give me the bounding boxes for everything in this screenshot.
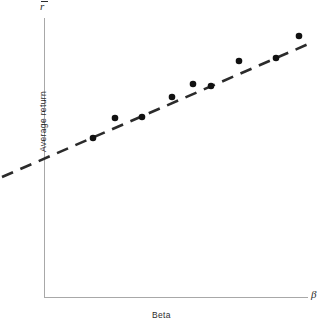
- data-point: [90, 135, 97, 142]
- data-point: [236, 58, 243, 65]
- data-point: [296, 33, 303, 40]
- chart-figure: r β Average return Beta: [0, 0, 325, 328]
- y-axis-title: Average return: [38, 138, 48, 152]
- data-point: [208, 83, 215, 90]
- data-point: [190, 81, 197, 88]
- y-axis-symbol: r: [40, 1, 48, 12]
- plot-canvas: [0, 0, 325, 328]
- x-axis-symbol: β: [311, 288, 316, 300]
- y-axis-symbol-glyph: r: [40, 1, 48, 12]
- fit-line-group: [2, 42, 313, 177]
- data-point: [112, 115, 119, 122]
- data-point: [169, 94, 176, 101]
- regression-line: [2, 42, 313, 177]
- axes-group: [44, 18, 308, 298]
- data-point: [139, 114, 146, 121]
- data-point: [273, 55, 280, 62]
- x-axis-title: Beta: [152, 310, 171, 320]
